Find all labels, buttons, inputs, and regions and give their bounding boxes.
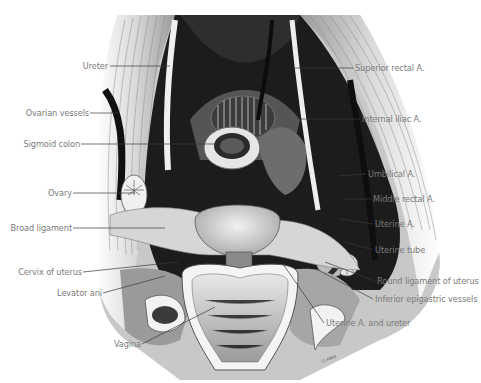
label-sigmoid-colon: Sigmoid colon [24,139,80,149]
sigmoid-colon [204,127,260,169]
label-uterine-artery: Uterine A. [375,219,415,229]
label-middle-rectal-artery: Middle rectal A. [373,194,435,204]
label-ovarian-vessels: Ovarian vessels [26,108,89,118]
label-uterine-artery-and-ureter: Uterine A. and ureter [326,318,410,328]
label-inferior-epigastric-vessels: Inferior epigastric vessels [375,294,477,304]
label-ovary: Ovary [48,188,72,198]
label-internal-iliac-artery: Internal iliac A. [362,114,421,124]
label-uterine-tube: Uterine tube [375,245,425,255]
label-ureter: Ureter [83,61,108,71]
label-vagina: Vagina [114,339,141,349]
label-umbilical-artery: Umbilical A. [368,169,415,179]
label-round-ligament: Round ligament of uterus [377,276,479,286]
label-cervix-of-uterus: Cervix of uterus [18,267,82,277]
label-superior-rectal-artery: Superior rectal A. [355,63,424,73]
label-levator-ani: Levator ani [57,288,102,298]
anatomy-figure: CLARKE Ureter Ovarian vessels Sigmoid co… [0,0,481,383]
label-broad-ligament: Broad ligament [11,223,72,233]
